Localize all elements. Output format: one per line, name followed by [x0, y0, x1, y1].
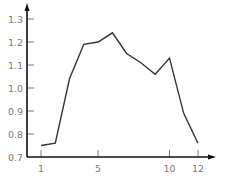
y-tick-label: 1.2	[8, 37, 23, 48]
y-tick-label: 1.0	[8, 83, 23, 94]
y-tick-label: 1.1	[8, 60, 23, 71]
y-axis-ticks: 0.70.80.91.01.11.21.3	[8, 14, 34, 163]
line-chart: 0.70.80.91.01.11.21.3 151012	[0, 0, 226, 182]
y-axis-arrow-icon	[25, 3, 30, 11]
y-tick-label: 0.7	[8, 152, 23, 163]
x-axis-arrow-icon	[208, 155, 216, 160]
x-tick-label: 5	[95, 163, 101, 174]
x-axis-ticks: 151012	[38, 150, 204, 174]
data-line	[41, 33, 198, 146]
y-tick-label: 1.3	[8, 14, 23, 25]
x-tick-label: 1	[38, 163, 44, 174]
y-tick-label: 0.9	[8, 106, 23, 117]
x-tick-label: 10	[163, 163, 175, 174]
y-tick-label: 0.8	[8, 129, 23, 140]
x-tick-label: 12	[192, 163, 204, 174]
